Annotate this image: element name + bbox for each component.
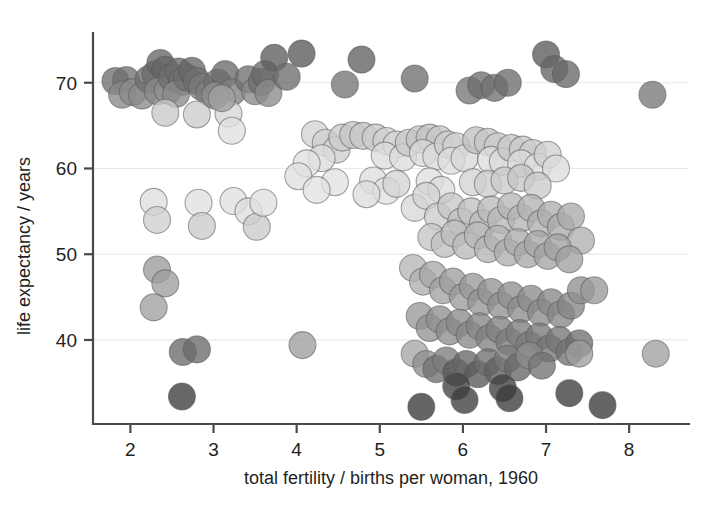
scatter-point — [642, 340, 669, 367]
x-tick-label: 5 — [374, 439, 385, 460]
scatter-point — [289, 332, 316, 359]
x-tick-label: 8 — [624, 439, 635, 460]
scatter-point — [152, 99, 179, 126]
scatter-point — [348, 46, 375, 73]
scatter-point — [496, 385, 523, 412]
scatter-point — [140, 294, 167, 321]
scatter-point — [353, 181, 380, 208]
data-points-layer — [102, 40, 669, 420]
scatter-point — [185, 189, 212, 216]
scatter-plot-figure: 2345678 40506070 total fertility / birth… — [0, 0, 716, 514]
scatter-point — [168, 383, 195, 410]
scatter-point — [273, 63, 300, 90]
scatter-point — [581, 277, 608, 304]
scatter-point — [451, 386, 478, 413]
scatter-point — [188, 212, 215, 239]
scatter-point — [552, 61, 579, 88]
scatter-point — [566, 340, 593, 367]
scatter-point — [556, 246, 583, 273]
y-tick-label: 50 — [56, 244, 77, 265]
scatter-point — [288, 40, 315, 67]
y-tick-label: 40 — [56, 330, 77, 351]
scatter-point — [331, 71, 358, 98]
scatter-point — [494, 69, 521, 96]
scatter-point — [589, 392, 616, 419]
scatter-point — [208, 85, 235, 112]
scatter-point — [557, 203, 584, 230]
y-tick-label: 70 — [56, 73, 77, 94]
scatter-point — [408, 393, 435, 420]
x-tick-label: 4 — [291, 439, 302, 460]
y-axis-title: life expectancy / years — [14, 157, 34, 335]
scatter-point — [152, 270, 179, 297]
x-tick-label: 2 — [125, 439, 136, 460]
chart-canvas: 2345678 40506070 total fertility / birth… — [0, 0, 716, 514]
scatter-point — [303, 176, 330, 203]
x-axis-title: total fertility / births per woman, 1960 — [244, 468, 538, 488]
scatter-point — [183, 336, 210, 363]
scatter-point — [250, 189, 277, 216]
x-tick-label: 3 — [208, 439, 219, 460]
y-axis-ticks: 40506070 — [56, 73, 93, 351]
scatter-point — [401, 65, 428, 92]
x-tick-label: 6 — [458, 439, 469, 460]
y-tick-label: 60 — [56, 158, 77, 179]
scatter-point — [243, 213, 270, 240]
scatter-point — [639, 81, 666, 108]
scatter-point — [144, 206, 171, 233]
scatter-point — [218, 117, 245, 144]
x-axis-ticks: 2345678 — [125, 424, 634, 460]
scatter-point — [556, 380, 583, 407]
x-tick-label: 7 — [541, 439, 552, 460]
scatter-point — [383, 170, 410, 197]
scatter-point — [528, 352, 555, 379]
